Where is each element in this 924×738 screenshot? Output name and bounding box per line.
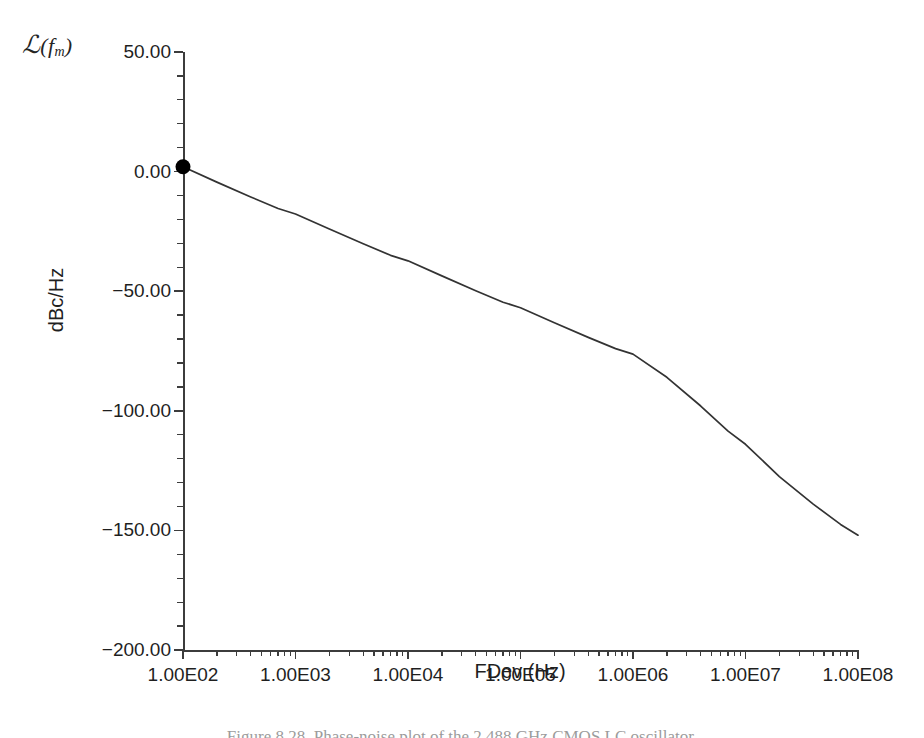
y-tick-minor <box>177 75 183 76</box>
x-tick-minor <box>502 650 503 656</box>
y-tick-major <box>174 171 183 173</box>
figure-caption: Figure 8.28. Phase-noise plot of the 2.4… <box>0 726 924 738</box>
x-tick-minor <box>588 650 589 656</box>
x-tick-minor <box>261 650 262 656</box>
y-tick-minor <box>177 434 183 435</box>
x-tick-minor <box>554 650 555 656</box>
x-tick-major <box>745 650 747 659</box>
x-tick-minor <box>727 650 728 656</box>
plot-area: 50.000.00−50.00−100.00−150.00−200.00 1.0… <box>183 52 858 650</box>
y-tick-major <box>174 410 183 412</box>
y-tick-label: −50.00 <box>112 280 171 302</box>
x-tick-minor <box>382 650 383 656</box>
y-tick-major <box>174 290 183 292</box>
x-tick-minor <box>509 650 510 656</box>
x-tick-major <box>520 650 522 659</box>
x-tick-minor <box>598 650 599 656</box>
x-tick-minor <box>270 650 271 656</box>
x-tick-minor <box>349 650 350 656</box>
x-tick-minor <box>846 650 847 656</box>
y-axis-line <box>183 52 185 650</box>
x-tick-minor <box>615 650 616 656</box>
y-tick-minor <box>177 482 183 483</box>
y-tick-minor <box>177 195 183 196</box>
x-tick-minor <box>441 650 442 656</box>
x-tick-minor <box>779 650 780 656</box>
x-tick-label: 1.00E08 <box>823 664 894 686</box>
x-tick-minor <box>734 650 735 656</box>
x-tick-minor <box>666 650 667 656</box>
x-tick-major <box>407 650 409 659</box>
y-tick-label: 50.00 <box>123 41 171 63</box>
y-tick-minor <box>177 625 183 626</box>
x-tick-minor <box>852 650 853 656</box>
x-tick-minor <box>363 650 364 656</box>
x-tick-minor <box>711 650 712 656</box>
x-tick-minor <box>495 650 496 656</box>
open-paren: ( <box>40 33 48 58</box>
x-tick-label: 1.00E04 <box>373 664 444 686</box>
x-tick-minor <box>290 650 291 656</box>
x-tick-minor <box>236 650 237 656</box>
y-tick-label: 0.00 <box>134 161 171 183</box>
y-tick-minor <box>177 267 183 268</box>
x-tick-minor <box>813 650 814 656</box>
close-paren: ) <box>65 33 73 58</box>
x-tick-minor <box>720 650 721 656</box>
x-tick-minor <box>396 650 397 656</box>
script-L-glyph: ℒ <box>22 31 40 58</box>
x-tick-label: 1.00E06 <box>598 664 669 686</box>
x-tick-minor <box>515 650 516 656</box>
y-tick-label: −200.00 <box>102 639 171 661</box>
x-tick-minor <box>284 650 285 656</box>
phase-noise-figure: ℒ(fm) dBc/Hz FDev (Hz) 50.000.00−50.00−1… <box>0 0 924 738</box>
x-tick-minor <box>840 650 841 656</box>
x-tick-minor <box>607 650 608 656</box>
y-tick-minor <box>177 362 183 363</box>
x-tick-label: 1.00E07 <box>710 664 781 686</box>
x-tick-minor <box>475 650 476 656</box>
y-tick-minor <box>177 219 183 220</box>
y-tick-minor <box>177 506 183 507</box>
x-tick-minor <box>700 650 701 656</box>
x-tick-minor <box>621 650 622 656</box>
x-tick-minor <box>740 650 741 656</box>
y-tick-major <box>174 530 183 532</box>
y-tick-label: −150.00 <box>102 519 171 541</box>
y-tick-minor <box>177 123 183 124</box>
x-tick-minor <box>277 650 278 656</box>
x-tick-label: 1.00E02 <box>148 664 219 686</box>
y-tick-major <box>174 51 183 53</box>
y-tick-minor <box>177 147 183 148</box>
x-tick-minor <box>823 650 824 656</box>
y-tick-label: −100.00 <box>102 400 171 422</box>
x-tick-minor <box>216 650 217 656</box>
y-tick-minor <box>177 602 183 603</box>
y-tick-minor <box>177 99 183 100</box>
x-tick-minor <box>373 650 374 656</box>
x-tick-minor <box>574 650 575 656</box>
y-tick-minor <box>177 458 183 459</box>
x-tick-major <box>182 650 184 659</box>
y-tick-minor <box>177 243 183 244</box>
y-axis-title: dBc/Hz <box>45 268 68 332</box>
x-tick-label: 1.00E05 <box>485 664 556 686</box>
x-tick-minor <box>402 650 403 656</box>
y-tick-minor <box>177 314 183 315</box>
x-tick-label: 1.00E03 <box>260 664 331 686</box>
x-tick-minor <box>461 650 462 656</box>
y-tick-minor <box>177 578 183 579</box>
script-L-fm-symbol: ℒ(fm) <box>22 30 72 60</box>
y-tick-minor <box>177 386 183 387</box>
subscript-m: m <box>54 44 64 59</box>
x-tick-minor <box>250 650 251 656</box>
x-tick-minor <box>329 650 330 656</box>
x-tick-major <box>632 650 634 659</box>
y-tick-minor <box>177 338 183 339</box>
x-tick-major <box>857 650 859 659</box>
x-tick-minor <box>390 650 391 656</box>
x-tick-minor <box>832 650 833 656</box>
x-tick-minor <box>686 650 687 656</box>
y-tick-minor <box>177 554 183 555</box>
x-tick-major <box>295 650 297 659</box>
